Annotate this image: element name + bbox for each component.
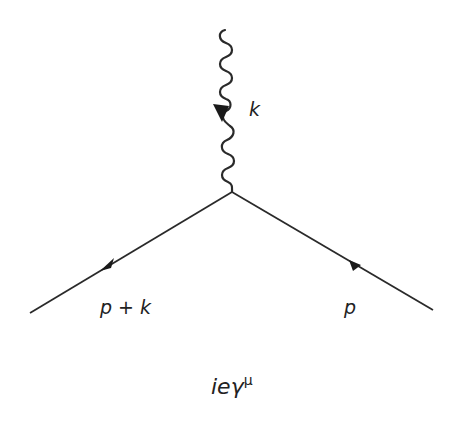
- fermion-line-incoming: [232, 192, 433, 310]
- fermion-line-outgoing: [30, 192, 232, 313]
- vertex-factor: ieγμ: [211, 373, 253, 398]
- outgoing-momentum-label: p + k: [100, 298, 151, 317]
- feynman-diagram: [0, 0, 454, 423]
- photon-momentum-label: k: [249, 100, 260, 119]
- vertex-factor-index: μ: [244, 372, 253, 388]
- vertex-factor-base: ieγ: [211, 374, 244, 399]
- photon-arrow-icon: [213, 104, 229, 122]
- incoming-momentum-label: p: [344, 298, 356, 317]
- fermion-arrow-incoming-icon: [349, 260, 361, 271]
